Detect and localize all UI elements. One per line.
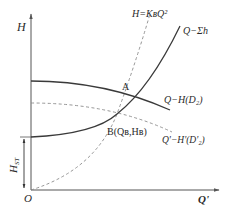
point-a-label: A (122, 81, 130, 92)
static-head-label-sub: ST (13, 157, 21, 166)
svg-text:HST: HST (7, 157, 21, 174)
pump-curve (31, 81, 170, 110)
y-axis-label: H (16, 20, 27, 34)
trimmed-pump-curve (31, 103, 172, 132)
pump-curve-diagram: H O Q' H=KʙQ² Q−Σh Q−H(D₂) Q'−H'(D'₂) A … (0, 0, 225, 216)
pump-curve-label: Q−H(D₂) (164, 94, 203, 106)
similarity-parabola-label: H=KʙQ² (131, 8, 168, 19)
x-axis-label: Q' (198, 193, 209, 205)
origin-label: O (24, 192, 32, 204)
trimmed-pump-curve-label: Q'−H'(D'₂) (162, 135, 205, 146)
similarity-parabola-curve (31, 14, 150, 190)
system-curve-label: Q−Σh (183, 25, 208, 36)
point-b-label: B(Qʙ,Hʙ) (107, 126, 147, 138)
static-head-label: HST (7, 157, 21, 174)
